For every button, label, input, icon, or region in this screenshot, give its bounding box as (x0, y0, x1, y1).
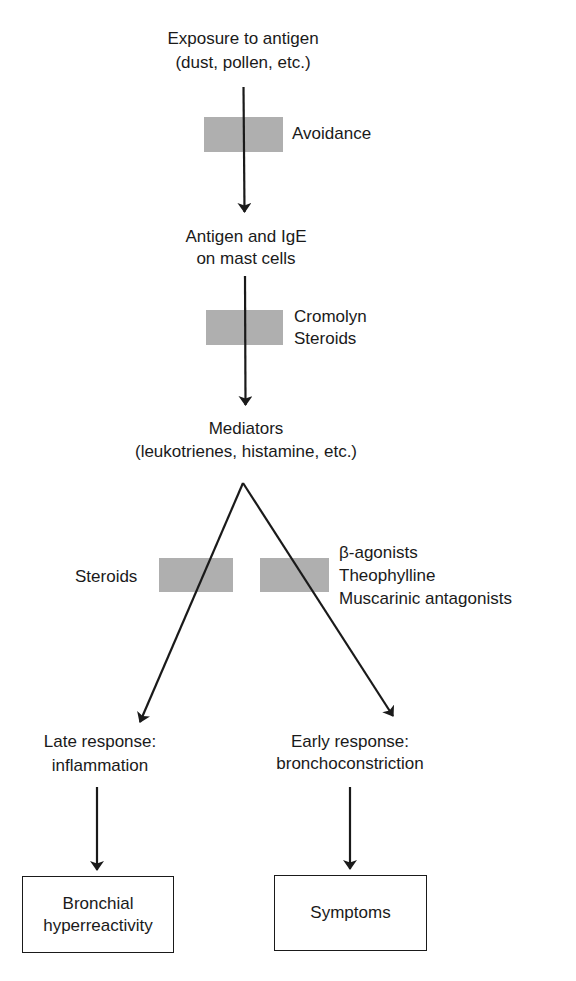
steroids-label-late: Steroids (75, 566, 137, 588)
exposure-node-line1: Exposure to antigen (167, 28, 318, 50)
avoidance-label: Avoidance (292, 123, 371, 145)
exposure-node-line2: (dust, pollen, etc.) (175, 52, 310, 74)
arrow-antigen-to-mediators (245, 276, 246, 405)
mediators-node-line1: Mediators (209, 418, 284, 440)
theophylline-label: Theophylline (339, 565, 435, 587)
antigen-ige-node-line2: on mast cells (196, 248, 295, 270)
mediators-node-line2: (leukotrienes, histamine, etc.) (135, 441, 357, 463)
cromolyn-label: Cromolyn (294, 306, 367, 328)
early-response-node-line2: bronchoconstriction (276, 753, 423, 775)
symptoms-box-label: Symptoms (310, 902, 390, 924)
late-response-node-line1: Late response: (44, 731, 156, 753)
bronchial-box-line1: Bronchial (43, 893, 153, 915)
early-response-node-line1: Early response: (291, 731, 409, 753)
late-response-node-line2: inflammation (52, 755, 148, 777)
bronchial-box-line2: hyperreactivity (43, 915, 153, 937)
bronchial-hyperreactivity-box: Bronchial hyperreactivity (22, 876, 174, 953)
antigen-ige-node-line1: Antigen and IgE (186, 226, 307, 248)
beta-agonists-label: β-agonists (339, 542, 418, 564)
muscarinic-antagonists-label: Muscarinic antagonists (339, 588, 512, 610)
arrow-exposure-to-antigen (244, 87, 245, 212)
arrows-layer (0, 0, 576, 981)
arrow-mediators-to-late (140, 483, 243, 722)
steroids-label-upper: Steroids (294, 328, 356, 350)
symptoms-box: Symptoms (274, 875, 427, 951)
